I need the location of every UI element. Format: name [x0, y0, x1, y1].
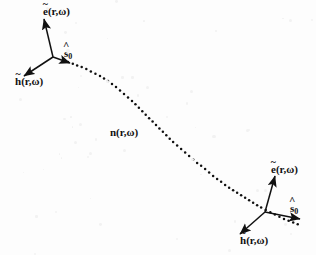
vector-h-upper [24, 57, 53, 76]
label-s-lower: ^s0 [290, 203, 298, 216]
label-e-lower: ~e(r,ω) [271, 164, 298, 175]
vector-e-upper [44, 19, 53, 57]
label-s-upper-subscript: 0 [68, 52, 72, 61]
tilde-accent-icon: ~ [271, 157, 276, 167]
label-e-upper-args: (r,ω) [48, 5, 70, 17]
hat-accent-icon: ^ [289, 195, 295, 206]
hat-accent-icon: ^ [63, 40, 69, 51]
tilde-accent-icon: ~ [15, 69, 20, 79]
vector-e-lower [265, 176, 275, 212]
tilde-accent-icon: ~ [240, 228, 245, 238]
figure-canvas [0, 0, 316, 255]
label-h-lower-args: (r,ω) [246, 234, 268, 246]
label-h-upper-args: (r,ω) [21, 75, 43, 87]
tilde-accent-icon: ~ [43, 0, 48, 9]
label-h-upper: ~h(r,ω) [15, 76, 43, 87]
label-e-lower-args: (r,ω) [276, 163, 298, 175]
ray-path-curve [67, 61, 299, 226]
ray-path-figure: ~e(r,ω) ~h(r,ω) ^s0 ~e(r,ω) ~h(r,ω) ^s0 … [0, 0, 316, 255]
label-e-upper: ~e(r,ω) [43, 6, 70, 17]
label-s-lower-subscript: 0 [294, 207, 298, 216]
label-h-lower: ~h(r,ω) [240, 235, 268, 246]
label-refractive-index: n(r,ω) [110, 127, 138, 138]
label-s-upper: ^s0 [64, 48, 72, 61]
